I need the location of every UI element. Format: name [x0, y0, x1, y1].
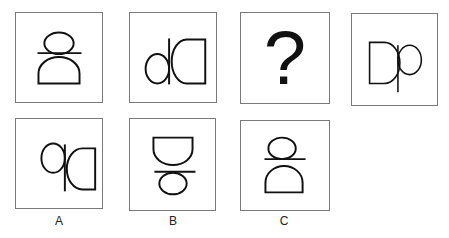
stacked-figure-icon: [241, 121, 329, 210]
sequence-panel-4: [351, 13, 438, 106]
dD-figure-icon: [130, 13, 216, 102]
option-B-label: B: [158, 214, 188, 228]
option-A-label: A: [44, 214, 74, 228]
option-C-panel[interactable]: [240, 120, 330, 211]
question-panel: ?: [240, 12, 330, 104]
sequence-panel-2: [129, 12, 217, 103]
Dp-figure-icon: [352, 14, 437, 105]
option-A-panel[interactable]: [15, 118, 103, 209]
sequence-panel-1: [15, 12, 103, 103]
stacked-inverted-figure-icon: [130, 119, 215, 210]
option-B-panel[interactable]: [129, 118, 216, 211]
option-C-label: C: [269, 214, 299, 228]
question-mark: ?: [241, 13, 329, 103]
qD-figure-icon: [16, 119, 102, 208]
stacked-figure-icon: [16, 13, 102, 102]
